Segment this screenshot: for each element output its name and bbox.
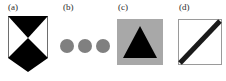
figure-panel-grid: (a) (b) (c) xyxy=(0,0,226,81)
circle-3 xyxy=(96,39,110,53)
panel-c-label: (c) xyxy=(118,2,128,13)
triangle-over-diamond-icon xyxy=(8,16,48,72)
circle-1 xyxy=(60,39,74,53)
diagonal-line-in-square-icon xyxy=(178,19,222,65)
panel-a: (a) xyxy=(0,0,58,81)
panel-b: (b) xyxy=(58,0,113,81)
panel-b-artwork xyxy=(60,36,110,56)
panel-d: (d) xyxy=(175,0,226,81)
triangle-on-gray-square-icon xyxy=(117,19,163,65)
panel-c-artwork xyxy=(117,19,163,65)
panel-a-label: (a) xyxy=(8,2,18,13)
panel-a-artwork xyxy=(8,16,48,72)
panel-c: (c) xyxy=(113,0,175,81)
three-gray-circles-icon xyxy=(60,36,110,56)
panel-d-artwork xyxy=(178,19,222,65)
circle-2 xyxy=(78,39,92,53)
panel-d-label: (d) xyxy=(179,2,190,13)
panel-b-label: (b) xyxy=(63,2,74,13)
